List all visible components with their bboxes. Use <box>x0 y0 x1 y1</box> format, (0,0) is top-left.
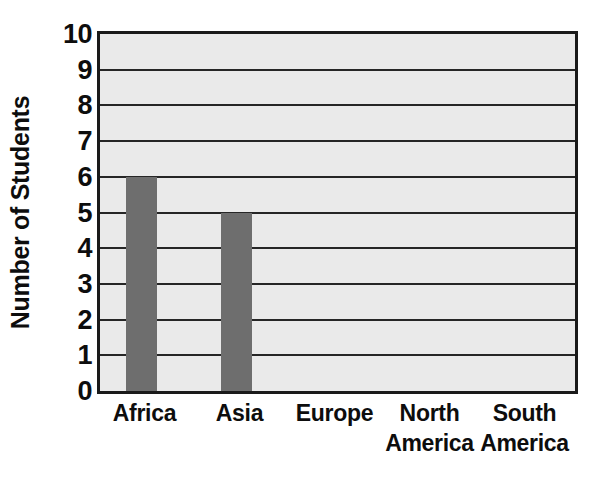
x-axis-tick-label: Europe <box>287 398 382 428</box>
bar <box>221 213 252 392</box>
gridline <box>100 69 575 71</box>
x-axis-tick-label-line: America <box>477 428 572 458</box>
gridline <box>100 283 575 285</box>
y-axis-tick-label: 8 <box>40 92 92 119</box>
x-axis-tick-label-line: Africa <box>113 400 176 426</box>
y-axis-tick-label: 0 <box>40 378 92 405</box>
y-axis-tick-label: 3 <box>40 270 92 297</box>
y-axis-tick-label: 5 <box>40 199 92 226</box>
x-axis-tick-label: NorthAmerica <box>382 398 477 459</box>
y-axis-tick-label: 7 <box>40 128 92 155</box>
y-axis-tick-labels: 109876543210 <box>40 31 92 394</box>
x-axis-tick-label-line: North <box>400 400 460 426</box>
gridline <box>100 247 575 249</box>
gridline <box>100 354 575 356</box>
x-axis-tick-label: Africa <box>97 398 192 428</box>
plot-inner <box>100 34 575 391</box>
y-axis-tick-label: 10 <box>40 21 92 48</box>
x-axis-tick-labels: AfricaAsiaEuropeNorthAmericaSouthAmerica <box>97 398 578 474</box>
x-axis-tick-label-line: South <box>493 400 557 426</box>
gridline <box>100 212 575 214</box>
y-axis-tick-label: 4 <box>40 235 92 262</box>
gridline <box>100 104 575 106</box>
gridline <box>100 140 575 142</box>
y-axis-tick-label: 1 <box>40 342 92 369</box>
bar <box>126 177 157 391</box>
y-axis-tick-label: 9 <box>40 56 92 83</box>
x-axis-tick-label-line: Asia <box>216 400 263 426</box>
bar-chart-figure: Number of Students 109876543210 AfricaAs… <box>0 0 596 478</box>
gridline <box>100 176 575 178</box>
gridline <box>100 319 575 321</box>
x-axis-tick-label: Asia <box>192 398 287 428</box>
y-axis-title: Number of Students <box>0 31 40 394</box>
x-axis-tick-label-line: Europe <box>296 400 373 426</box>
plot-area <box>97 31 578 394</box>
y-axis-tick-label: 6 <box>40 163 92 190</box>
x-axis-tick-label: SouthAmerica <box>477 398 572 459</box>
x-axis-tick-label-line: America <box>382 428 477 458</box>
y-axis-tick-label: 2 <box>40 306 92 333</box>
